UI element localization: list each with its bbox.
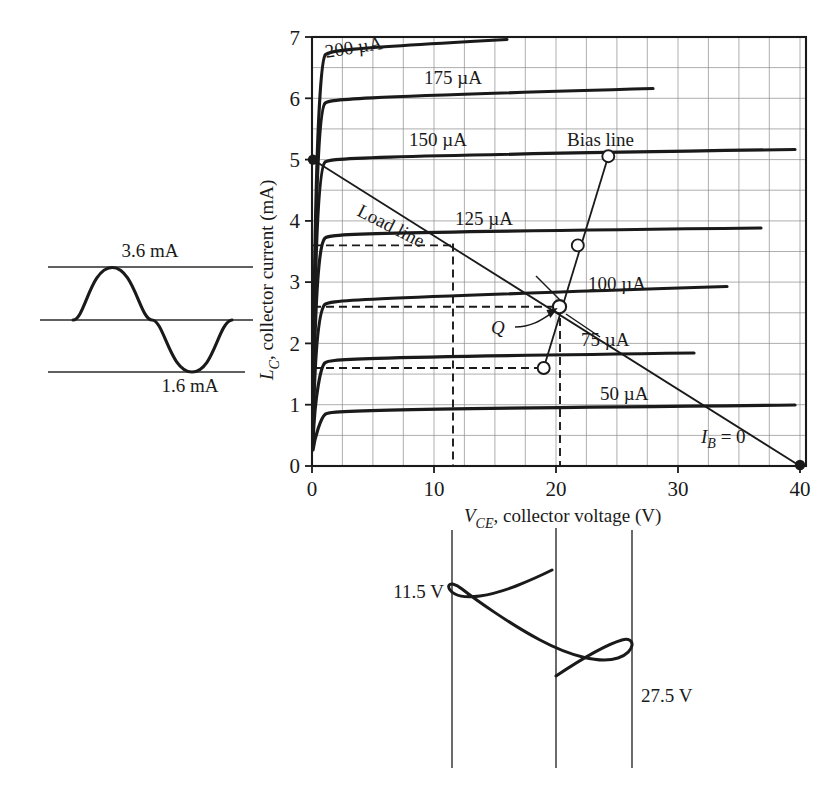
y-tick-1: 1 <box>290 393 301 417</box>
bias-point-125uA <box>572 239 584 251</box>
x-tick-30: 30 <box>668 477 689 501</box>
curve-label-75uA: 75 µA <box>581 329 630 350</box>
output-left-label: 11.5 V <box>393 581 444 602</box>
curve-label-150uA: 150 µA <box>409 129 467 150</box>
y-tick-6: 6 <box>290 87 301 111</box>
input-waveform-group: 3.6 mA 1.6 mA <box>40 240 253 396</box>
curve-label-50uA: 50 µA <box>600 383 649 404</box>
y-tick-3: 3 <box>290 270 301 294</box>
bias-point-150uA <box>602 150 614 162</box>
bias-line-label: Bias line <box>567 129 634 150</box>
x-tick-labels: 0 10 20 30 40 <box>307 477 811 501</box>
output-right-label: 27.5 V <box>641 685 693 706</box>
x-tick-20: 20 <box>546 477 567 501</box>
curve-125uA <box>313 228 761 435</box>
input-trough-label: 1.6 mA <box>162 375 219 396</box>
output-sine-curve <box>449 570 632 676</box>
x-axis-title-sub: CE <box>476 516 494 531</box>
q-leader-curve <box>515 313 553 328</box>
bias-point-75uA <box>538 362 550 374</box>
y-tick-4: 4 <box>290 209 301 233</box>
curve-label-100uA: 100 µA <box>588 273 646 294</box>
figure-svg: 3.6 mA 1.6 mA <box>0 0 826 789</box>
curve-label-125uA: 125 µA <box>455 208 513 229</box>
x-axis-title: VCE, collector voltage (V) <box>464 505 661 531</box>
load-line-endpoint-bottom <box>795 460 805 470</box>
y-axis-title-rest: , collector current (mA) <box>256 180 278 360</box>
x-axis-title-rest: , collector voltage (V) <box>494 505 662 527</box>
y-axis-title-main: L <box>256 369 277 381</box>
y-tick-labels: 0 1 2 3 4 5 6 7 <box>290 26 301 478</box>
input-peak-label: 3.6 mA <box>122 240 179 261</box>
figure-container: 3.6 mA 1.6 mA <box>0 0 826 789</box>
y-tick-2: 2 <box>290 332 301 356</box>
x-tick-0: 0 <box>307 477 318 501</box>
load-line-endpoint-top <box>308 154 318 164</box>
ib-zero-rest: = 0 <box>716 426 746 447</box>
svg-text:VCE, collector voltage (V): VCE, collector voltage (V) <box>464 505 661 531</box>
output-waveform-group: 11.5 V 27.5 V <box>393 528 692 768</box>
x-tick-40: 40 <box>790 477 811 501</box>
svg-text:LC, collector current (mA): LC, collector current (mA) <box>256 180 282 381</box>
curve-100uA <box>313 287 727 439</box>
y-axis-title: LC, collector current (mA) <box>256 180 282 381</box>
y-tick-0: 0 <box>290 454 301 478</box>
characteristic-plot: 0 1 2 3 4 5 6 7 0 10 20 30 <box>256 26 811 531</box>
y-tick-7: 7 <box>290 26 301 50</box>
curve-label-175uA: 175 µA <box>424 67 482 88</box>
x-tick-10: 10 <box>424 477 445 501</box>
minor-grid-horizontal <box>312 68 806 436</box>
leader-from-100uA <box>536 276 560 300</box>
y-tick-5: 5 <box>290 148 301 172</box>
q-point-label: Q <box>491 317 505 338</box>
